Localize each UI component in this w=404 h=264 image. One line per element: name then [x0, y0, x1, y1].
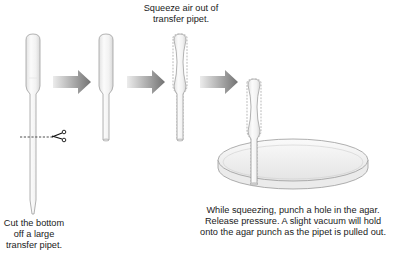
squeezed-pipet: [173, 34, 187, 141]
caption-line: off a large: [0, 229, 74, 240]
caption-line: Release pressure. A slight vacuum will h…: [183, 216, 403, 227]
squeeze-caption: Squeeze air out of transfer pipet.: [131, 3, 231, 25]
petri-dish: [218, 139, 368, 189]
arrow-right-icon: [53, 70, 91, 94]
caption-line: transfer pipet.: [0, 240, 74, 251]
caption-line: While squeezing, punch a hole in the aga…: [183, 205, 403, 216]
caption-line: transfer pipet.: [131, 14, 231, 25]
cut-caption: Cut the bottom off a large transfer pipe…: [0, 218, 74, 251]
caption-line: Squeeze air out of: [131, 3, 231, 14]
cut-pipet: [99, 34, 113, 141]
punch-caption: While squeezing, punch a hole in the aga…: [183, 205, 403, 238]
caption-line: onto the agar punch as the pipet is pull…: [183, 227, 403, 238]
arrow-right-icon: [127, 70, 165, 94]
caption-line: Cut the bottom: [0, 218, 74, 229]
arrow-right-icon: [200, 70, 238, 94]
full-pipet: [26, 34, 40, 214]
scissors-icon: [52, 130, 66, 142]
